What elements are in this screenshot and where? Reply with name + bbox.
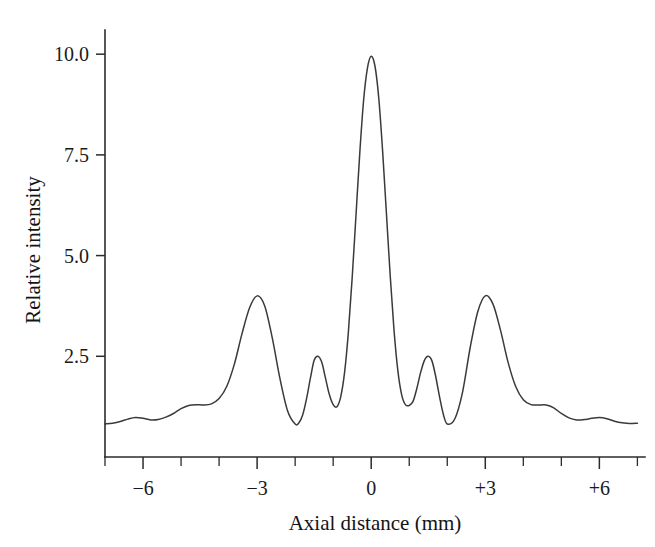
y-axis-title: Relative intensity — [21, 176, 45, 324]
x-tick-label-4: +6 — [589, 477, 610, 499]
x-axis-ticks — [105, 457, 637, 469]
y-tick-label-1: 5.0 — [64, 245, 89, 267]
x-tick-label-3: +3 — [475, 477, 496, 499]
y-tick-label-3: 10.0 — [54, 43, 89, 65]
x-tick-label-0: −6 — [132, 477, 153, 499]
intensity-line-chart: 2.55.07.510.0 −6−30+3+6 Axial distance (… — [0, 0, 655, 547]
x-tick-label-2: 0 — [366, 477, 376, 499]
figure-container: 2.55.07.510.0 −6−30+3+6 Axial distance (… — [0, 0, 655, 547]
y-tick-label-0: 2.5 — [64, 345, 89, 367]
x-axis-title: Axial distance (mm) — [289, 511, 462, 535]
y-axis-ticks — [96, 54, 105, 356]
x-axis-tick-labels: −6−30+3+6 — [132, 477, 610, 499]
x-tick-label-1: −3 — [246, 477, 267, 499]
y-axis-tick-labels: 2.55.07.510.0 — [54, 43, 89, 367]
y-tick-label-2: 7.5 — [64, 144, 89, 166]
intensity-curve — [105, 56, 637, 425]
